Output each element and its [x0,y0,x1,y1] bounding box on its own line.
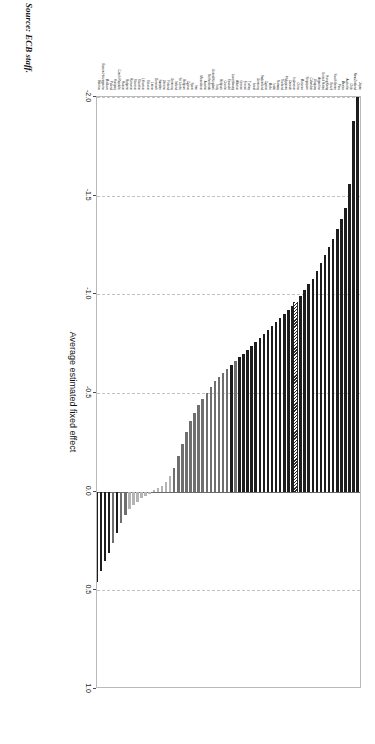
bar [197,405,200,492]
source-note: Source: ECB staff. [24,3,34,73]
category-label: Moldova [105,79,108,90]
category-axis-labels: JapanNew ZealandChileAustraliaMexicoPeru… [96,0,361,94]
category-label: Slovenia [133,79,136,90]
bar [344,208,347,492]
bar [177,456,180,492]
bar [96,492,98,583]
category-label: France [243,81,246,90]
bar [238,357,241,491]
category-label: Canada [288,80,291,90]
x-tick [93,491,96,492]
category-label: Finland [166,80,169,90]
category-label: Uruguay [313,79,316,90]
bar [136,492,139,502]
category-label: Russia [121,81,124,90]
x-tick [93,688,96,689]
bar [316,271,319,492]
category-label: Poland [109,81,112,90]
bar [210,387,213,492]
category-label: Estonia [146,80,149,90]
bar [267,330,270,492]
x-tick [93,293,96,294]
bar [222,373,225,491]
category-label: Peru [337,84,340,90]
x-tick-label: -0.5 [85,386,92,398]
category-label: Japan [358,82,361,90]
category-label: Spain [190,82,193,90]
x-tick [93,96,96,97]
bar-series [97,97,360,687]
bar [218,377,221,491]
bar [108,492,111,553]
bar [263,334,266,492]
category-label: Sweden [158,79,161,90]
bar [336,229,339,491]
bar [189,421,192,492]
bar [206,393,209,492]
category-label: Malta [268,83,271,90]
bar [193,413,196,492]
bar [128,492,131,510]
bar [120,492,123,524]
category-label: South Korea [333,74,336,90]
bar [356,97,359,492]
rotated-figure-wrapper: JapanNew ZealandChileAustraliaMexicoPeru… [0,0,375,744]
category-label: Slovakia [137,79,140,90]
bar [293,302,298,491]
bar [132,492,135,506]
category-label: Philippines [284,76,287,90]
plot-area [96,96,361,688]
category-label: New Zealand [354,73,357,90]
category-label: Croatia [223,80,226,90]
bar [181,444,184,491]
x-tick-label: -1.5 [85,189,92,201]
bar [161,486,164,492]
category-label: Switzerland [260,75,263,90]
category-label: Australia [345,78,348,90]
bar [246,350,249,492]
category-label: Denmark [154,78,157,90]
x-tick [93,195,96,196]
category-label: Italy [215,85,218,90]
x-tick-label: -2.0 [85,90,92,102]
category-label: Turkey [248,81,251,90]
category-label: Albania [235,80,238,90]
bar [307,284,310,491]
category-label: Mexico [341,81,344,90]
category-label: Romania [129,78,132,90]
bar [299,296,302,491]
category-label: Singapore [305,77,308,90]
bar [100,492,103,571]
x-tick [93,589,96,590]
bar [104,492,107,561]
category-label: United States [321,72,324,90]
chart-figure: JapanNew ZealandChileAustraliaMexicoPeru… [0,0,375,744]
category-label: Chile [349,83,352,90]
bar [312,279,315,492]
category-label: Sri Lanka [178,78,181,90]
bar [214,381,217,492]
category-label: Belgium [219,79,222,90]
bar [165,482,168,492]
category-label: Austria [203,81,206,90]
bar [324,255,327,492]
bar [226,369,229,491]
bar [242,354,245,492]
bar [153,490,156,492]
x-tick-label: -1.0 [85,287,92,299]
category-label: Germany [256,78,259,90]
category-label: Brazil [329,83,332,90]
category-label: Luxembourg [231,74,234,90]
category-label: Morocco [301,79,304,90]
category-label: Netherlands [207,74,210,90]
category-label: Macedonia [199,76,202,90]
bar [332,239,335,492]
category-label: Czech Republic [117,69,120,90]
bar [287,310,290,492]
category-label: Cyprus [186,81,189,90]
category-label: Colombia [309,78,312,90]
category-label: Germany [170,78,173,90]
category-label: China [296,82,299,90]
category-label: Belgium [182,79,185,90]
bar [173,468,176,492]
